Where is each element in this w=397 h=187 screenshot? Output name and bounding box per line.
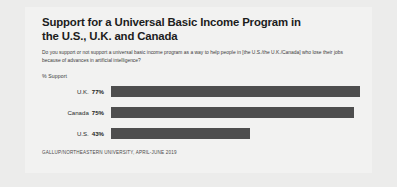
bar-chart: U.K.77% Canada75% U.S.43 xyxy=(42,86,364,139)
bar-value-label: 77% xyxy=(92,88,104,95)
axis-note-percent-support: % Support xyxy=(42,73,364,79)
bar-us xyxy=(111,128,250,139)
bar-uk xyxy=(111,86,360,97)
chart-row: Canada75% xyxy=(42,107,364,118)
bar-category-label: U.S. xyxy=(77,130,89,137)
bar-track xyxy=(111,128,364,139)
bar-track xyxy=(111,86,364,97)
bar-label-group: U.K.77% xyxy=(42,88,111,95)
page-background: Support for a Universal Basic Income Pro… xyxy=(0,0,397,187)
bar-category-label: U.K. xyxy=(77,88,89,95)
bar-label-group: U.S.43% xyxy=(42,130,111,137)
bar-value-label: 43% xyxy=(92,130,104,137)
bar-track xyxy=(111,107,364,118)
survey-question-text: Do you support or not support a universa… xyxy=(42,49,354,64)
bar-value-label: 75% xyxy=(92,109,104,116)
page-title: Support for a Universal Basic Income Pro… xyxy=(42,16,312,43)
chart-row: U.K.77% xyxy=(42,86,364,97)
chart-row: U.S.43% xyxy=(42,128,364,139)
source-attribution: GALLUP/NORTHEASTERN UNIVERSITY, APRIL-JU… xyxy=(42,150,364,155)
bar-label-group: Canada75% xyxy=(42,109,111,116)
bar-category-label: Canada xyxy=(67,109,88,116)
bar-canada xyxy=(111,107,354,118)
card-content: Support for a Universal Basic Income Pro… xyxy=(42,16,364,155)
chart-card: Support for a Universal Basic Income Pro… xyxy=(25,7,372,173)
